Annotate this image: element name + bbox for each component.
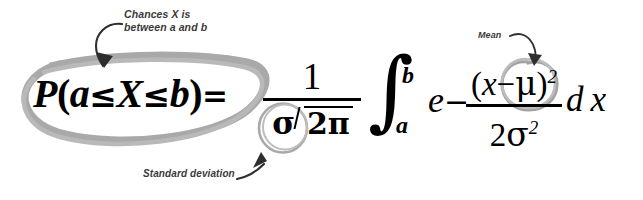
exp-close-paren: ) (537, 66, 548, 102)
radicand-two-pi: 2π (307, 106, 350, 141)
exponential-base: e− (428, 79, 469, 121)
equals-sign: = (202, 78, 227, 114)
math-formula: P(a≤X≤b)= 1 σ2π ∫ b a e− (x−μ)2 2σ2 d x (0, 0, 643, 200)
lower-bound-a: a (70, 71, 90, 116)
mu-symbol: μ (515, 64, 536, 103)
square-root-icon: 2π (295, 101, 352, 146)
fraction-denominator: σ2π (263, 101, 361, 146)
exponent-numerator: (x−μ)2 (466, 58, 562, 103)
euler-e: e (428, 80, 444, 120)
less-equal-1: ≤ (89, 76, 116, 115)
denominator-exponent-two: 2 (529, 117, 539, 138)
probability-p: P (33, 71, 57, 116)
formula-illustration: Chances X is between a and b Mean Standa… (0, 0, 643, 200)
integral-lower-limit: a (396, 112, 408, 139)
differential-dx: d x (566, 80, 606, 120)
denominator-two: 2 (490, 117, 507, 153)
integral-upper-limit: b (402, 62, 414, 89)
subtraction-sign: − (497, 66, 516, 102)
coefficient-fraction: 1 σ2π (263, 57, 361, 146)
integral-expression: ∫ b a (368, 60, 424, 142)
variable-x: x (482, 66, 497, 102)
numerator-exponent-two: 2 (548, 66, 558, 87)
exp-open-paren: ( (471, 66, 482, 102)
exponent-fraction: (x−μ)2 2σ2 (466, 58, 562, 156)
sigma-symbol: σ (272, 105, 295, 141)
random-variable-x: X (116, 71, 142, 116)
probability-expression: P(a≤X≤b)= (33, 70, 228, 117)
less-equal-2: ≤ (143, 76, 170, 115)
denominator-sigma-symbol: σ (506, 115, 529, 154)
exponent-denominator: 2σ2 (466, 107, 562, 156)
open-paren: ( (57, 71, 70, 116)
fraction-numerator-one: 1 (263, 57, 361, 97)
close-paren: ) (189, 71, 202, 116)
upper-bound-b: b (170, 71, 190, 116)
